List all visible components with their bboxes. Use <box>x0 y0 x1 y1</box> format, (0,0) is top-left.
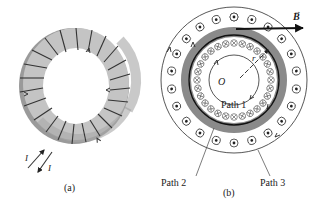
path-2-label: Path 2 <box>161 177 186 188</box>
toroid-3d <box>19 28 136 172</box>
current-label-in: I <box>24 153 29 163</box>
path-2-circle <box>189 35 279 125</box>
center-label-o: O <box>218 76 225 87</box>
radius-label-r: r <box>252 53 256 63</box>
path-3-label: Path 3 <box>260 177 285 188</box>
vector-arrow-glyph: → <box>293 7 301 16</box>
toroid-cross-section <box>161 7 307 176</box>
b-field-arrow <box>236 28 303 29</box>
caption-a: (a) <box>64 182 75 194</box>
current-label-out: I <box>47 163 52 173</box>
toroid-diagrams: I I (a) <box>0 0 312 202</box>
caption-b: (b) <box>223 187 235 199</box>
path-1-label: Path 1 <box>221 99 246 110</box>
